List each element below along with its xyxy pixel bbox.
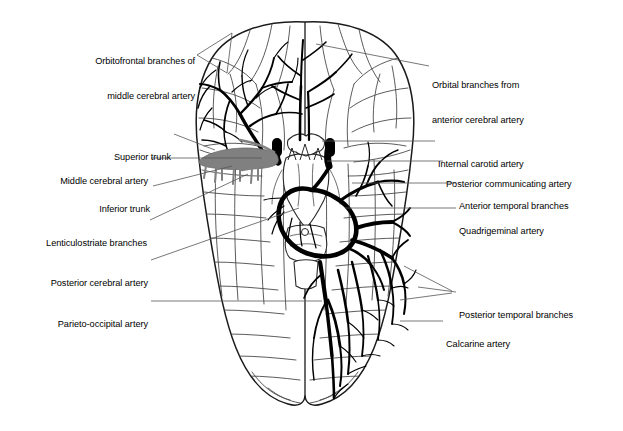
label-line: Inferior trunk [0, 204, 150, 216]
leader-posterior-temporal-branches [400, 266, 456, 300]
label-calcarine-artery: Calcarine artery [446, 316, 623, 374]
label-line: Orbital branches from [432, 80, 622, 92]
label-orbitofrontal-branches-of-middle-cerebral-artery: Orbitofrontal branches of middle cerebra… [0, 33, 195, 125]
label-line: middle cerebral artery [0, 91, 195, 103]
label-line: Calcarine artery [446, 339, 623, 351]
figure-page: Orbitofrontal branches of middle cerebra… [0, 0, 623, 431]
label-parieto-occipital-artery: Parieto-occipital artery [0, 296, 148, 354]
label-line: anterior cerebral artery [432, 115, 622, 127]
label-line: Posterior cerebral artery [0, 278, 148, 290]
label-line: Parieto-occipital artery [0, 319, 148, 331]
label-line: Lenticulostriate branches [0, 238, 147, 250]
label-quadrigeminal-artery: Quadrigeminal artery [459, 203, 623, 261]
label-line: Orbitofrontal branches of [0, 56, 195, 68]
label-line: Quadrigeminal artery [459, 226, 623, 238]
